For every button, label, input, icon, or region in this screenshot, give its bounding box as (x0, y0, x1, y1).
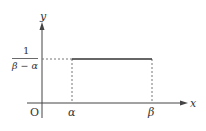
y-axis-arrow-icon (40, 22, 45, 30)
y-axis-label: y (39, 10, 47, 23)
uniform-density-diagram: y x O α β 1 β − α (0, 0, 206, 131)
x-tick-beta: β (147, 106, 154, 119)
origin-label: O (30, 106, 39, 119)
fraction-numerator: 1 (23, 45, 29, 56)
x-tick-alpha: α (68, 106, 76, 119)
fraction-denominator: β − α (11, 60, 38, 71)
x-axis-label: x (190, 97, 197, 110)
x-axis-arrow-icon (180, 101, 188, 106)
